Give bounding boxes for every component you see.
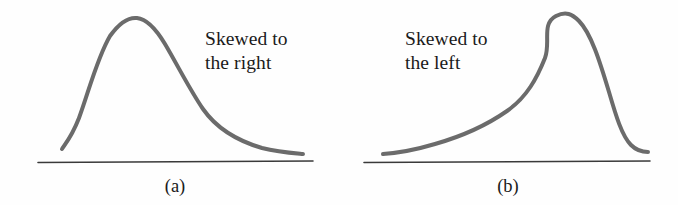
baseline-axis-b: [364, 161, 650, 163]
annotation-skewed-left: Skewed to the left: [405, 27, 488, 75]
subcaption-b: (b): [478, 176, 538, 197]
annotation-skewed-right: Skewed to the right: [205, 27, 288, 75]
panel-b-graphic: [339, 0, 678, 205]
subcaption-a: (a): [145, 176, 205, 197]
baseline-axis-a: [38, 161, 313, 163]
skewness-figure: Skewed to the right (a) Skewed to the le…: [0, 0, 678, 205]
panel-skewed-left: Skewed to the left (b): [339, 0, 678, 205]
panel-skewed-right: Skewed to the right (a): [0, 0, 339, 205]
annotation-a-line2: the right: [205, 51, 288, 75]
annotation-b-line2: the left: [405, 51, 488, 75]
annotation-b-line1: Skewed to: [405, 27, 488, 51]
annotation-a-line1: Skewed to: [205, 27, 288, 51]
panel-a-graphic: [0, 0, 339, 205]
